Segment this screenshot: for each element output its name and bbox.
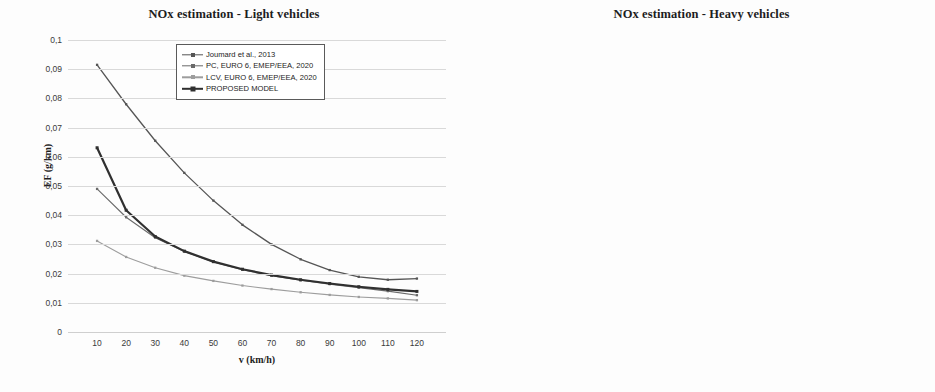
legend-light: Joumard et al., 2013PC, EURO 6, EMEP/EEA…: [176, 44, 325, 100]
series-marker: [212, 260, 215, 263]
series-marker: [416, 299, 418, 301]
x-axis-tick-label: 60: [238, 338, 247, 348]
chart-panel-heavy-vehicles: NOx estimation - Heavy vehicles EF (g/km…: [468, 0, 935, 392]
chart-panel-light-vehicles: NOx estimation - Light vehicles EF (g/km…: [0, 0, 468, 392]
y-axis-tick-label: 0,01: [45, 298, 62, 308]
legend-item: PROPOSED MODEL: [182, 83, 317, 94]
legend-item: PC, EURO 6, EMEP/EEA, 2020: [182, 60, 317, 71]
series-marker: [183, 250, 186, 253]
y-axis-tick-label: 0,1: [50, 35, 62, 45]
series-marker: [96, 240, 98, 242]
series-marker: [329, 294, 331, 296]
y-axis-tick-label: 0: [57, 327, 62, 337]
legend-item: LCV, EURO 6, EMEP/EEA, 2020: [182, 72, 317, 83]
legend-marker-icon: [182, 62, 203, 71]
series-marker: [387, 279, 389, 281]
gridline-y: [68, 40, 446, 41]
y-axis-tick-label: 0,08: [45, 93, 62, 103]
series-marker: [212, 199, 214, 201]
series-marker: [241, 224, 243, 226]
series-line: [97, 148, 417, 292]
x-axis-tick-label: 10: [92, 338, 101, 348]
series-marker: [96, 64, 98, 66]
y-axis-tick-label: 0,09: [45, 64, 62, 74]
series-marker: [154, 140, 156, 142]
legend-marker-icon: [182, 50, 203, 59]
y-axis-tick-label: 0,07: [45, 123, 62, 133]
chart-title-heavy: NOx estimation - Heavy vehicles: [468, 7, 935, 22]
series-marker: [299, 291, 301, 293]
gridline-y: [68, 303, 446, 304]
y-axis-tick-label: 0,06: [45, 152, 62, 162]
figure-page: NOx estimation - Light vehicles EF (g/km…: [0, 0, 935, 392]
series-marker: [154, 267, 156, 269]
gridline-y: [68, 215, 446, 216]
x-axis-title-light: v (km/h): [68, 354, 446, 365]
gridline-y: [68, 274, 446, 275]
gridline-y: [68, 186, 446, 187]
x-axis-tick-label: 70: [267, 338, 276, 348]
series-marker: [125, 103, 127, 105]
legend-marker-icon: [182, 73, 203, 82]
series-marker: [386, 288, 389, 291]
y-axis-tick-label: 0,03: [45, 239, 62, 249]
series-marker: [96, 188, 98, 190]
series-marker: [415, 290, 418, 293]
y-axis-tick-label: 0,04: [45, 210, 62, 220]
x-axis-tick-label: 40: [180, 338, 189, 348]
series-marker: [299, 258, 301, 260]
x-axis-tick-label: 50: [209, 338, 218, 348]
series-marker: [357, 285, 360, 288]
series-marker: [270, 288, 272, 290]
gridline-y: [68, 128, 446, 129]
series-marker: [358, 296, 360, 298]
y-axis-tick-label: 0,02: [45, 269, 62, 279]
series-marker: [96, 146, 99, 149]
series-marker: [212, 280, 214, 282]
x-axis-tick-label: 120: [410, 338, 424, 348]
series-line: [97, 189, 417, 295]
series-marker: [328, 282, 331, 285]
series-marker: [416, 277, 418, 279]
x-axis-tick-label: 30: [150, 338, 159, 348]
x-axis-tick-label: 20: [121, 338, 130, 348]
series-marker: [241, 268, 244, 271]
legend-item-label: PROPOSED MODEL: [206, 83, 278, 94]
series-line: [97, 241, 417, 300]
gridline-y: [68, 332, 446, 333]
series-marker: [125, 216, 127, 218]
legend-item-label: Joumard et al., 2013: [206, 49, 275, 60]
y-axis-tick-label: 0,05: [45, 181, 62, 191]
x-axis-tick-label: 90: [325, 338, 334, 348]
series-marker: [183, 274, 185, 276]
legend-item-label: PC, EURO 6, EMEP/EEA, 2020: [206, 60, 313, 71]
series-marker: [387, 297, 389, 299]
legend-item: Joumard et al., 2013: [182, 49, 317, 60]
series-marker: [358, 276, 360, 278]
y-axis-title-light: EF (g/km): [42, 121, 53, 211]
series-marker: [183, 172, 185, 174]
series-marker: [125, 256, 127, 258]
series-marker: [299, 278, 302, 281]
series-marker: [125, 209, 128, 212]
chart-title-light: NOx estimation - Light vehicles: [0, 7, 468, 22]
series-marker: [329, 269, 331, 271]
legend-marker-icon: [182, 84, 203, 93]
series-marker: [154, 235, 157, 238]
gridline-y: [68, 157, 446, 158]
x-axis-tick-label: 110: [381, 338, 395, 348]
gridline-y: [68, 244, 446, 245]
legend-item-label: LCV, EURO 6, EMEP/EEA, 2020: [206, 72, 317, 83]
series-marker: [241, 284, 243, 286]
x-axis-tick-label: 80: [296, 338, 305, 348]
x-axis-tick-label: 100: [352, 338, 366, 348]
series-marker: [416, 294, 418, 296]
